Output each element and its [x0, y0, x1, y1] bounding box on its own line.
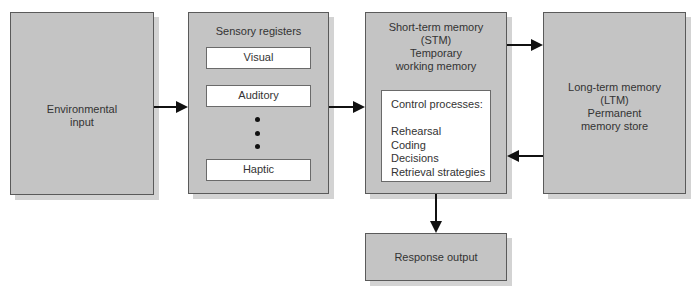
short-term-memory-box: Short-term memory (STM) Temporary workin…: [365, 12, 507, 194]
environmental-input-box: Environmental input: [10, 12, 154, 195]
ellipsis-dot-2: [255, 131, 260, 136]
control-process-decisions: Decisions: [391, 152, 439, 166]
control-process-retrieval: Retrieval strategies: [391, 166, 485, 180]
environmental-input-label: Environmental input: [11, 103, 153, 129]
ellipsis-dot-1: [255, 117, 260, 122]
stm-line3: Temporary: [366, 47, 506, 60]
control-processes-title: Control processes:: [391, 98, 483, 112]
response-output-label: Response output: [366, 251, 506, 264]
stm-line4: working memory: [366, 60, 506, 73]
long-term-memory-box: Long-term memory (LTM) Permanent memory …: [543, 12, 686, 194]
stm-label: Short-term memory (STM) Temporary workin…: [366, 21, 506, 73]
ltm-line4: memory store: [544, 120, 685, 133]
stm-line2: (STM): [366, 34, 506, 47]
sensory-register-visual: Visual: [206, 47, 311, 69]
environmental-input-line2: input: [11, 116, 153, 129]
sensory-registers-box: Sensory registers Visual Auditory Haptic: [188, 12, 329, 194]
ltm-line2: (LTM): [544, 94, 685, 107]
ltm-line1: Long-term memory: [544, 81, 685, 94]
control-process-rehearsal: Rehearsal: [391, 125, 441, 139]
ltm-label: Long-term memory (LTM) Permanent memory …: [544, 81, 685, 133]
stm-line1: Short-term memory: [366, 21, 506, 34]
environmental-input-line1: Environmental: [11, 103, 153, 116]
control-process-coding: Coding: [391, 139, 426, 153]
response-output-box: Response output: [365, 233, 507, 281]
ellipsis-dot-3: [255, 144, 260, 149]
sensory-register-auditory: Auditory: [206, 85, 311, 107]
control-processes-box: Control processes: Rehearsal Coding Deci…: [381, 90, 491, 182]
ltm-line3: Permanent: [544, 107, 685, 120]
sensory-register-haptic: Haptic: [206, 159, 311, 181]
sensory-registers-title: Sensory registers: [189, 25, 328, 38]
